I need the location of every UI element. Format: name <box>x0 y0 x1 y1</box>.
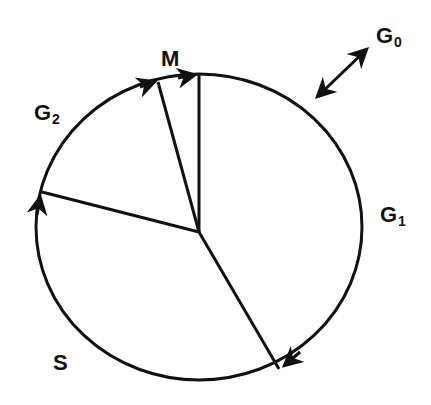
svg-text:M: M <box>161 46 179 71</box>
svg-text:G: G <box>380 202 397 227</box>
svg-text:0: 0 <box>394 34 402 50</box>
diagram-canvas: M G 2 G 1 S G 0 <box>0 0 431 405</box>
label-g1: G 1 <box>380 202 406 229</box>
svg-text:1: 1 <box>398 213 406 229</box>
svg-text:G: G <box>376 23 393 48</box>
spoke-g2-m <box>158 82 199 232</box>
label-g2: G 2 <box>34 100 60 127</box>
label-g0: G 0 <box>376 23 402 50</box>
label-s: S <box>53 350 68 375</box>
cell-cycle-diagram: M G 2 G 1 S G 0 <box>0 0 431 405</box>
svg-text:S: S <box>53 350 68 375</box>
svg-text:2: 2 <box>52 111 60 127</box>
g0-double-arrow <box>318 50 366 96</box>
spoke-s-g2 <box>42 192 199 232</box>
svg-text:G: G <box>34 100 51 125</box>
spoke-g1-s <box>199 232 279 369</box>
label-m: M <box>161 46 179 71</box>
